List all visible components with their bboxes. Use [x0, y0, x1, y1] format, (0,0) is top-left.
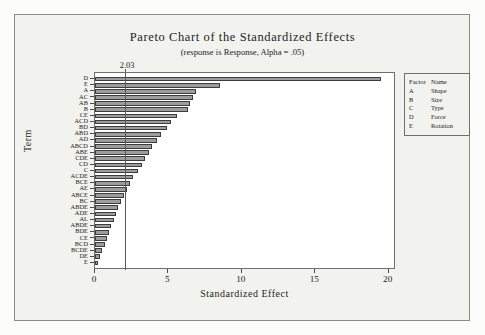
- bar: [95, 218, 114, 223]
- y-axis-tick: [90, 176, 94, 177]
- bar-series: [95, 73, 394, 268]
- y-axis-tick: [90, 207, 94, 208]
- y-axis-tick: [90, 201, 94, 202]
- bar: [95, 107, 188, 112]
- legend-body: AShapeBSizeCTypeDForceERotation: [409, 87, 453, 130]
- bar: [95, 101, 190, 106]
- y-axis-tick-label: E: [84, 259, 88, 265]
- y-axis-tick: [90, 146, 94, 147]
- chart-title: Pareto Chart of the Standardized Effects: [0, 30, 485, 45]
- bar: [95, 83, 220, 88]
- legend-row: CType: [409, 104, 453, 113]
- legend-row: BSize: [409, 96, 453, 105]
- y-axis-tick: [90, 84, 94, 85]
- legend-name: Size: [431, 96, 453, 105]
- y-axis-tick: [90, 250, 94, 251]
- legend-row: ERotation: [409, 122, 453, 131]
- x-axis-tick-label: 20: [383, 274, 392, 284]
- bar: [95, 150, 149, 155]
- y-axis-tick: [90, 262, 94, 263]
- legend-row: DForce: [409, 113, 453, 122]
- legend-name: Rotation: [431, 122, 453, 131]
- bar: [95, 205, 118, 210]
- y-axis-tick: [90, 182, 94, 183]
- bar: [95, 144, 152, 149]
- y-axis-tick: [90, 195, 94, 196]
- legend-name: Type: [431, 104, 453, 113]
- y-axis-tick: [90, 256, 94, 257]
- x-axis-tick-label: 15: [310, 274, 319, 284]
- legend-header-row: Factor Name: [409, 78, 453, 87]
- bar: [95, 114, 177, 119]
- y-axis-tick: [90, 225, 94, 226]
- x-axis-tick: [167, 269, 168, 273]
- bar: [95, 230, 109, 235]
- bar: [95, 199, 121, 204]
- y-axis-tick: [90, 158, 94, 159]
- legend-factor: B: [409, 96, 431, 105]
- y-axis-tick: [90, 170, 94, 171]
- y-axis-tick: [90, 219, 94, 220]
- x-axis-tick-label: 5: [165, 274, 170, 284]
- y-axis-tick: [90, 96, 94, 97]
- bar: [95, 169, 138, 174]
- x-axis-tick: [241, 269, 242, 273]
- x-axis-tick: [314, 269, 315, 273]
- bar: [95, 120, 171, 125]
- y-axis-tick: [90, 164, 94, 165]
- bar: [95, 132, 161, 137]
- bar: [95, 156, 145, 161]
- bar: [95, 212, 116, 217]
- legend-factor: E: [409, 122, 431, 131]
- factor-legend: Factor Name AShapeBSizeCTypeDForceERotat…: [404, 73, 470, 136]
- x-axis-tick: [388, 269, 389, 273]
- bar: [95, 248, 102, 253]
- chart-subtitle: (response is Response, Alpha = .05): [0, 47, 485, 57]
- bar: [95, 95, 193, 100]
- legend-header-name: Name: [431, 78, 453, 87]
- bar: [95, 224, 111, 229]
- legend-name: Force: [431, 113, 453, 122]
- plot-area: [94, 72, 395, 269]
- bar: [95, 261, 98, 266]
- y-axis-tick: [90, 90, 94, 91]
- y-axis-tick: [90, 237, 94, 238]
- legend-header-factor: Factor: [409, 78, 431, 87]
- y-axis-tick: [90, 213, 94, 214]
- bar: [95, 175, 133, 180]
- reference-line-label: 2.03: [120, 61, 135, 70]
- bar: [95, 77, 381, 82]
- bar: [95, 89, 196, 94]
- y-axis-tick: [90, 133, 94, 134]
- legend-factor: A: [409, 87, 431, 96]
- bar: [95, 193, 124, 198]
- y-axis-tick: [90, 121, 94, 122]
- legend-name: Shape: [431, 87, 453, 96]
- legend-factor: C: [409, 104, 431, 113]
- bar: [95, 126, 167, 131]
- y-axis-tick: [90, 152, 94, 153]
- bar: [95, 236, 107, 241]
- y-axis-tick: [90, 127, 94, 128]
- y-axis-tick: [90, 244, 94, 245]
- y-axis-tick: [90, 103, 94, 104]
- legend-table: Factor Name AShapeBSizeCTypeDForceERotat…: [409, 78, 453, 130]
- legend-factor: D: [409, 113, 431, 122]
- x-axis-tick-label: 10: [236, 274, 245, 284]
- y-axis-tick: [90, 188, 94, 189]
- legend-row: AShape: [409, 87, 453, 96]
- y-axis-tick: [90, 231, 94, 232]
- bar: [95, 163, 142, 168]
- x-axis-tick: [94, 269, 95, 273]
- y-axis-tick: [90, 109, 94, 110]
- bar: [95, 242, 105, 247]
- y-axis-tick: [90, 115, 94, 116]
- x-axis-tick-label: 0: [92, 274, 97, 284]
- y-axis-tick: [90, 78, 94, 79]
- x-axis-title: Standardized Effect: [94, 288, 395, 299]
- y-axis-title: Term: [22, 129, 33, 152]
- bar: [95, 254, 100, 259]
- bar: [95, 187, 127, 192]
- pareto-chart-screenshot: Pareto Chart of the Standardized Effects…: [0, 0, 485, 335]
- y-axis-tick: [90, 139, 94, 140]
